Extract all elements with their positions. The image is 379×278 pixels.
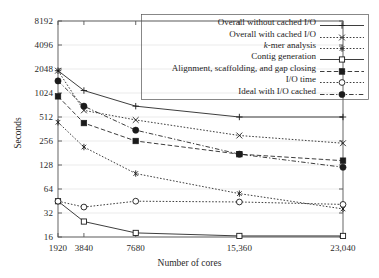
legend: Overall without cached I/OOverall with c… (141, 14, 369, 100)
legend-swatch-cross-icon (319, 29, 365, 40)
legend-label: Overall with cached I/O (229, 29, 319, 40)
y-tick-label: 64 (44, 185, 53, 194)
data-point-open-circle (81, 204, 87, 210)
data-point-open-square (340, 233, 345, 238)
data-point-open-square (133, 230, 138, 235)
legend-item: Overall with cached I/O (144, 28, 365, 39)
legend-label: Ideal with I/O cached (238, 86, 319, 97)
y-tick-label: 8192 (35, 17, 53, 26)
legend-item: I/O time (144, 74, 365, 85)
chart-container: 1632641282565121024204840968192 19203840… (0, 0, 379, 278)
legend-label: Overall without cached I/O (218, 17, 319, 28)
legend-label: I/O time (286, 74, 319, 85)
x-tick-label: 3840 (75, 244, 93, 253)
data-point-filled-square (81, 120, 87, 126)
data-point-star (56, 119, 61, 125)
legend-swatch-filled-square-icon (319, 63, 365, 74)
y-tick-label: 4096 (35, 41, 53, 50)
y-tick-label: 32 (44, 209, 53, 218)
x-tick-label: 23,040 (330, 244, 355, 253)
legend-swatch-open-square-icon (319, 51, 365, 62)
legend-item: Contig generation (144, 51, 365, 62)
legend-label: Alignment, scaffolding, and gap closing (172, 63, 319, 74)
legend-swatch-filled-circle-icon (319, 86, 365, 97)
legend-item: Overall without cached I/O (144, 17, 365, 28)
data-point-plus (133, 103, 139, 109)
legend-label: k-mer analysis (264, 40, 319, 51)
y-tick-label: 16 (44, 233, 53, 242)
legend-label: Contig generation (251, 51, 319, 62)
legend-item: Ideal with I/O cached (144, 85, 365, 96)
series-line (58, 201, 343, 207)
data-point-filled-square (133, 138, 139, 144)
y-tick-label: 128 (39, 161, 53, 170)
data-point-cross (133, 117, 139, 123)
legend-swatch-star-icon (319, 40, 365, 51)
series-line (58, 201, 343, 236)
legend-marker-filled-circle-icon (339, 91, 345, 97)
x-tick-label: 7680 (127, 244, 145, 253)
x-tick-label: 1920 (49, 244, 67, 253)
y-tick-label: 512 (39, 113, 53, 122)
legend-item: Alignment, scaffolding, and gap closing (144, 63, 365, 74)
data-point-filled-square (340, 158, 346, 164)
data-point-filled-circle (81, 103, 87, 109)
data-point-open-circle (340, 202, 346, 208)
legend-marker-open-square-icon (339, 57, 344, 62)
data-point-filled-circle (340, 164, 346, 170)
data-point-filled-circle (236, 151, 242, 157)
y-tick-label: 1024 (35, 89, 53, 98)
data-point-star (82, 144, 87, 150)
data-point-filled-circle (133, 127, 139, 133)
data-point-plus (236, 114, 242, 120)
data-point-open-circle (133, 198, 139, 204)
y-axis-title: Seconds (13, 103, 23, 163)
series-line (58, 96, 343, 160)
series-3 (55, 199, 345, 239)
legend-swatch-open-circle-icon (319, 74, 365, 85)
series-line (58, 122, 343, 209)
y-tick-label: 256 (39, 137, 53, 146)
series-4 (55, 94, 346, 164)
x-axis-title: Number of cores (0, 258, 379, 268)
x-tick-label: 15,360 (227, 244, 252, 253)
data-point-open-square (237, 233, 242, 238)
legend-swatch-plus-icon (319, 17, 365, 28)
data-point-star (133, 170, 138, 176)
series-2 (56, 119, 346, 212)
series-5 (55, 198, 346, 210)
data-point-filled-square (55, 94, 61, 100)
data-point-open-circle (236, 199, 242, 205)
data-point-plus (340, 114, 346, 120)
legend-item: k-mer analysis (144, 40, 365, 51)
data-point-open-circle (55, 198, 61, 204)
data-point-filled-circle (55, 78, 61, 84)
data-point-open-square (81, 219, 86, 224)
y-tick-label: 2048 (35, 65, 53, 74)
